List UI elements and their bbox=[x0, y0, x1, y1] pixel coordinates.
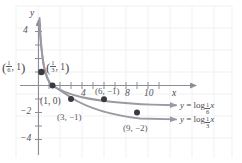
label-rest-third: , 1 bbox=[56, 62, 66, 72]
log-base-2: 13 bbox=[205, 119, 210, 126]
eq-lhs-1: y bbox=[180, 100, 184, 110]
log-word-1: log bbox=[194, 100, 206, 110]
paren-close: ) bbox=[65, 60, 69, 75]
point-one-zero bbox=[50, 83, 56, 89]
x-tick-label-10: 10 bbox=[144, 89, 154, 99]
eq-var-1: x bbox=[210, 100, 214, 110]
label-point-three-neg-one: (3, −1) bbox=[57, 113, 82, 122]
log-base-1: 16 bbox=[205, 105, 210, 112]
x-tick-label-8: 8 bbox=[125, 89, 130, 99]
eq-sign-2: = bbox=[186, 114, 191, 124]
point-one-sixth-one bbox=[38, 69, 45, 76]
y-axis-label: y bbox=[30, 9, 34, 19]
eq-sign-1: = bbox=[186, 100, 191, 110]
y-tick-label-neg4: −4 bbox=[20, 134, 31, 144]
label-point-nine-neg-two: (9, −2) bbox=[123, 124, 148, 133]
paren-close: ) bbox=[21, 60, 25, 75]
point-three-neg-one bbox=[68, 96, 74, 102]
label-point-one-zero: (1, 0) bbox=[40, 97, 61, 107]
eq-var-2: x bbox=[210, 114, 214, 124]
log-word-2: log bbox=[194, 114, 206, 124]
curve-label-log-one-third: y = log13x bbox=[180, 115, 214, 131]
point-nine-neg-two bbox=[134, 110, 140, 116]
label-point-one-sixth-one: (16, 1) bbox=[2, 60, 25, 75]
x-axis-label: x bbox=[172, 89, 176, 99]
x-tick-label-4: 4 bbox=[81, 89, 86, 99]
fraction-one-third: 13 bbox=[50, 60, 55, 75]
point-six-neg-one bbox=[101, 96, 107, 102]
log-function-graph-figure: 4 −2 −4 4 8 10 y x (16, 1) (13, 1) (1, 0… bbox=[0, 0, 242, 163]
eq-lhs-2: y bbox=[180, 114, 184, 124]
y-tick-label-4: 4 bbox=[23, 26, 28, 36]
label-point-one-third-one: (13, 1) bbox=[46, 60, 69, 75]
label-rest-sixth: , 1 bbox=[12, 62, 22, 72]
fraction-one-sixth: 16 bbox=[6, 60, 11, 75]
y-tick-label-neg2: −2 bbox=[20, 107, 31, 117]
label-point-six-neg-one: (6, −1) bbox=[95, 87, 120, 96]
graph-canvas bbox=[0, 0, 242, 163]
